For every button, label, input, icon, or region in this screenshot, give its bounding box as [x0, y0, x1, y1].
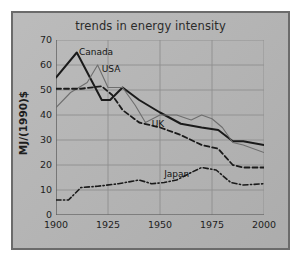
x-tick-label: 1975: [190, 219, 234, 230]
series-label-canada: Canada: [79, 47, 113, 57]
y-tick-label: 30: [22, 134, 52, 145]
x-tick-label: 1925: [86, 219, 130, 230]
y-tick-label: 60: [22, 59, 52, 70]
y-tick-label: 10: [22, 184, 52, 195]
x-tick-label: 1900: [34, 219, 78, 230]
series-label-uk: UK: [152, 119, 165, 129]
chart-figure: trends in energy intensity MJ/(1990)$ 01…: [11, 11, 290, 250]
y-tick-label: 40: [22, 109, 52, 120]
x-tick-label: 1950: [138, 219, 182, 230]
y-tick-label: 70: [22, 34, 52, 45]
x-tick-label: 2000: [242, 219, 286, 230]
chart-title: trends in energy intensity: [13, 19, 288, 33]
series-label-japan: Japan: [164, 169, 189, 179]
y-tick-label: 50: [22, 84, 52, 95]
series-label-usa: USA: [102, 64, 121, 74]
y-tick-label: 20: [22, 159, 52, 170]
